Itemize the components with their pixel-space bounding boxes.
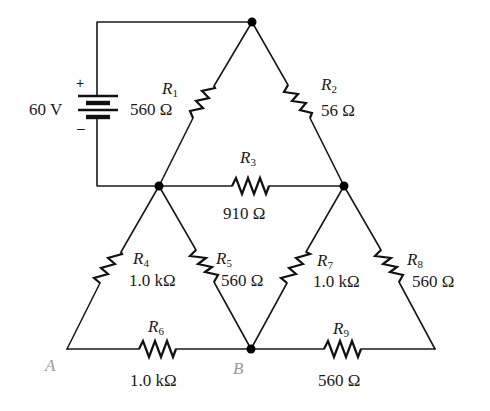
r8-value: 560 Ω: [412, 273, 454, 290]
battery-minus-sign: –: [77, 121, 85, 135]
r2-name: R2: [321, 76, 337, 95]
point-b-label: B: [233, 360, 243, 377]
node-top: [248, 18, 257, 27]
resistor-r1: [159, 22, 252, 186]
r5-name: R5: [216, 250, 232, 269]
battery-plus-sign: +: [76, 76, 84, 90]
r3-value: 910 Ω: [223, 205, 265, 222]
r7-name: R7: [317, 252, 333, 271]
r7-value: 1.0 kΩ: [313, 273, 360, 290]
r9-value: 560 Ω: [318, 372, 360, 389]
r5-value: 560 Ω: [221, 272, 263, 289]
r4-value: 1.0 kΩ: [129, 272, 176, 289]
battery-icon: [78, 96, 118, 117]
r4-name: R4: [133, 250, 149, 269]
battery-loop-wires: [97, 22, 252, 186]
r3-name: R3: [240, 149, 256, 168]
resistor-r9: [251, 341, 435, 357]
resistor-r3: [159, 178, 344, 194]
node-mid-right: [340, 182, 349, 191]
resistor-r6: [67, 341, 251, 357]
node-mid-left: [155, 182, 164, 191]
r6-value: 1.0 kΩ: [130, 372, 177, 389]
r9-name: R9: [333, 320, 349, 339]
node-b: [247, 345, 256, 354]
point-a-label: A: [45, 357, 55, 374]
r1-value: 560 Ω: [130, 101, 172, 118]
r2-value: 56 Ω: [321, 102, 355, 119]
r6-name: R6: [148, 318, 164, 337]
r8-name: R8: [407, 251, 423, 270]
r1-name: R1: [162, 80, 178, 99]
battery-voltage-label: 60 V: [29, 101, 62, 118]
